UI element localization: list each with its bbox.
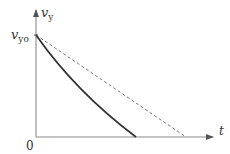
solid-curve [36, 35, 136, 137]
velocity-time-diagram: vy vyo t 0 [0, 0, 230, 154]
x-axis-label: t [219, 124, 224, 138]
y-axis-label: vy [41, 5, 54, 22]
vy0-label: vyo [11, 27, 29, 44]
dashed-curve [36, 35, 186, 137]
origin-label: 0 [26, 139, 34, 153]
